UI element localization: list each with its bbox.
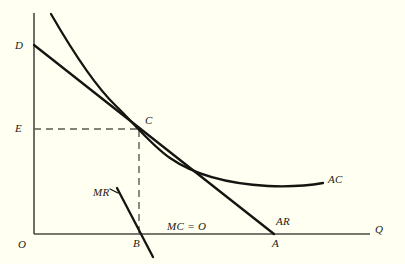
- label-origin: O: [18, 239, 26, 250]
- label-mc-equals-zero: MC = O: [167, 221, 206, 232]
- label-e: E: [15, 123, 22, 134]
- label-mr-curve: MR: [93, 187, 109, 198]
- label-ar-curve: AR: [276, 216, 290, 227]
- label-d: D: [15, 40, 23, 51]
- label-a: A: [272, 238, 279, 249]
- label-b: B: [133, 238, 140, 249]
- label-c: C: [145, 115, 153, 126]
- ac-curve: [51, 14, 323, 186]
- label-ac-curve: AC: [328, 174, 343, 185]
- label-quantity-axis: Q: [375, 224, 383, 235]
- ar-curve: [34, 45, 274, 234]
- economics-diagram: D E O C B A AR AC MR MC = O Q: [0, 0, 405, 264]
